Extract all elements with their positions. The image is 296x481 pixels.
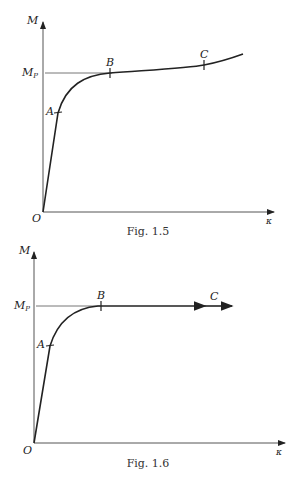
diagrams-canvas [0, 0, 296, 481]
point-b-label: B [106, 56, 114, 69]
y-axis-label: M [19, 244, 30, 257]
point-a-label: A [46, 105, 54, 118]
x-axis-label: κ [276, 447, 282, 457]
mp-label-sub: P [25, 305, 30, 313]
moment-curvature-curve [43, 54, 243, 212]
y-axis-label: M [27, 14, 38, 27]
point-c-label: C [200, 48, 208, 61]
figure-caption: Fig. 1.5 [0, 225, 296, 238]
point-a-label: A [37, 338, 45, 351]
mp-label-main: M [14, 299, 25, 312]
mp-label-sub: P [33, 72, 38, 80]
mp-label: MP [22, 66, 38, 80]
point-b-label: B [97, 289, 105, 302]
point-c-label: C [210, 290, 218, 303]
mp-label-main: M [22, 66, 33, 79]
origin-label: O [23, 444, 32, 457]
figure-1-5 [43, 22, 274, 212]
tick-a [46, 345, 54, 346]
origin-label: O [32, 212, 41, 225]
figure-1-6 [34, 252, 285, 443]
mp-label: MP [14, 299, 30, 313]
tick-a [54, 112, 62, 113]
figure-caption: Fig. 1.6 [0, 457, 296, 470]
moment-curvature-curve [34, 306, 205, 443]
